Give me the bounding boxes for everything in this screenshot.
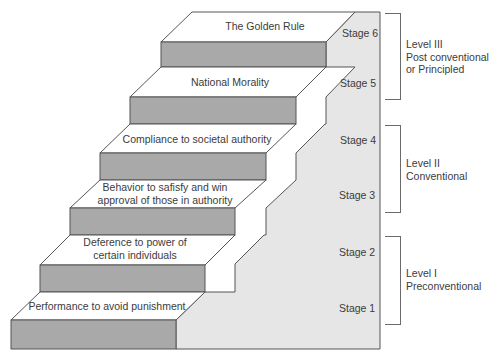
level-3-label: Level III Post conventional or Principle… [406,38,489,76]
step-1-label: Performance to avoid punishment [22,300,192,313]
stage-3-label: Stage 3 [339,189,375,202]
step-5-riser [130,97,296,124]
stage-6-label: Stage 6 [342,27,378,40]
step-3-riser [70,208,235,235]
step-1-riser [11,320,176,349]
step-2-text-line-2: certain individuals [60,249,210,262]
level-3-subtitle-1: Post conventional [406,51,489,64]
step-4-label: Compliance to societal authority [112,133,282,146]
step-5-label: National Morality [160,76,300,89]
step-5-text: National Morality [191,76,269,88]
level-1-title: Level I [406,267,481,280]
stage-4-label: Stage 4 [340,134,376,147]
level-2-title: Level II [406,157,467,170]
level-1-subtitle: Preconventional [406,280,481,293]
step-3-text-line-1: Behavior to safisfy and win [80,181,250,194]
level-2-bracket [385,125,401,213]
step-6-riser [161,42,326,67]
step-1-text: Performance to avoid punishment [28,300,185,312]
step-6-label: The Golden Rule [200,20,330,33]
step-2-label: Deference to power of certain individual… [60,236,210,262]
level-3-bracket [385,13,401,100]
level-3-title: Level III [406,38,489,51]
level-1-bracket [385,236,401,325]
step-2-riser [40,265,205,292]
stage-1-label: Stage 1 [339,302,375,315]
level-2-label: Level II Conventional [406,157,467,182]
level-2-subtitle: Conventional [406,170,467,183]
stage-2-label: Stage 2 [339,246,375,259]
level-3-subtitle-2: or Principled [406,63,489,76]
step-6-text: The Golden Rule [225,20,304,32]
stage-5-label: Stage 5 [340,77,376,90]
step-4-riser [100,153,266,180]
step-3-text-line-2: approval of those in authority [80,194,250,207]
step-3-label: Behavior to safisfy and win approval of … [80,181,250,207]
level-1-label: Level I Preconventional [406,267,481,292]
step-2-text-line-1: Deference to power of [60,236,210,249]
step-4-text: Compliance to societal authority [123,133,272,145]
